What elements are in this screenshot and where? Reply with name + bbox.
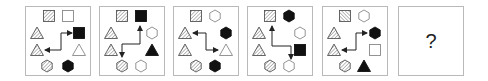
- black-triangle-icon: [358, 60, 371, 72]
- arrow-connector-icon: [122, 26, 140, 57]
- outline-triangle-icon: [220, 44, 233, 56]
- black-hexagon-icon: [284, 10, 294, 22]
- puzzle-panel-2: [99, 6, 165, 76]
- black-square-icon: [295, 45, 306, 56]
- hatch-triangle-icon: [31, 27, 44, 39]
- outline-square-icon: [370, 45, 381, 56]
- hatch-triangle-icon: [31, 44, 44, 56]
- hatch-triangle-icon: [328, 44, 341, 56]
- hatch-triangle-icon: [253, 27, 266, 39]
- outline-triangle-icon: [73, 44, 86, 56]
- outline-hexagon-icon: [295, 27, 305, 39]
- outline-hexagon-icon: [147, 27, 157, 39]
- hatch-hexagon-icon: [42, 60, 52, 72]
- black-hexagon-icon: [221, 27, 231, 39]
- arrow-connector-icon: [342, 33, 367, 50]
- black-square-icon: [136, 11, 147, 22]
- outline-square-icon: [63, 11, 74, 22]
- outline-hexagon-icon: [210, 10, 220, 22]
- arrow-connector-icon: [193, 33, 218, 50]
- hatch-triangle-icon: [179, 44, 192, 56]
- panel-3-shapes: [174, 7, 240, 77]
- panel-5-shapes: [323, 7, 389, 77]
- panel-2-shapes: [100, 7, 166, 77]
- black-triangle-icon: [146, 44, 159, 56]
- black-hexagon-icon: [210, 60, 220, 72]
- hatch-square-icon: [191, 11, 202, 22]
- hatch-hexagon-icon: [340, 60, 350, 72]
- hatch-triangle-icon: [328, 27, 341, 39]
- hatch-triangle-icon: [105, 27, 118, 39]
- hatch-hexagon-icon: [265, 60, 275, 72]
- puzzle-panel-4: [247, 6, 313, 76]
- hatch-triangle-icon: [105, 44, 118, 56]
- hatch-square-icon: [340, 11, 351, 22]
- hatch-triangle-icon: [179, 27, 192, 39]
- outline-hexagon-icon: [136, 60, 146, 72]
- puzzle-panel-3: [173, 6, 239, 76]
- panel-1-shapes: [26, 7, 92, 77]
- panel-4-shapes: [248, 7, 314, 77]
- hatch-hexagon-icon: [117, 60, 127, 72]
- question-mark: ?: [399, 7, 463, 75]
- arrow-connector-icon: [272, 26, 291, 59]
- answer-panel[interactable]: ?: [398, 6, 464, 76]
- hatch-square-icon: [44, 11, 55, 22]
- puzzle-panel-1: [25, 6, 91, 76]
- hatch-square-icon: [265, 11, 276, 22]
- hatch-square-icon: [117, 11, 128, 22]
- outline-hexagon-icon: [359, 10, 369, 22]
- arrow-connector-icon: [45, 33, 72, 50]
- outline-hexagon-icon: [284, 60, 294, 72]
- black-hexagon-icon: [370, 27, 380, 39]
- black-square-icon: [74, 28, 85, 39]
- hatch-hexagon-icon: [191, 60, 201, 72]
- puzzle-panel-5: [322, 6, 388, 76]
- hatch-triangle-icon: [253, 44, 266, 56]
- black-hexagon-icon: [63, 60, 73, 72]
